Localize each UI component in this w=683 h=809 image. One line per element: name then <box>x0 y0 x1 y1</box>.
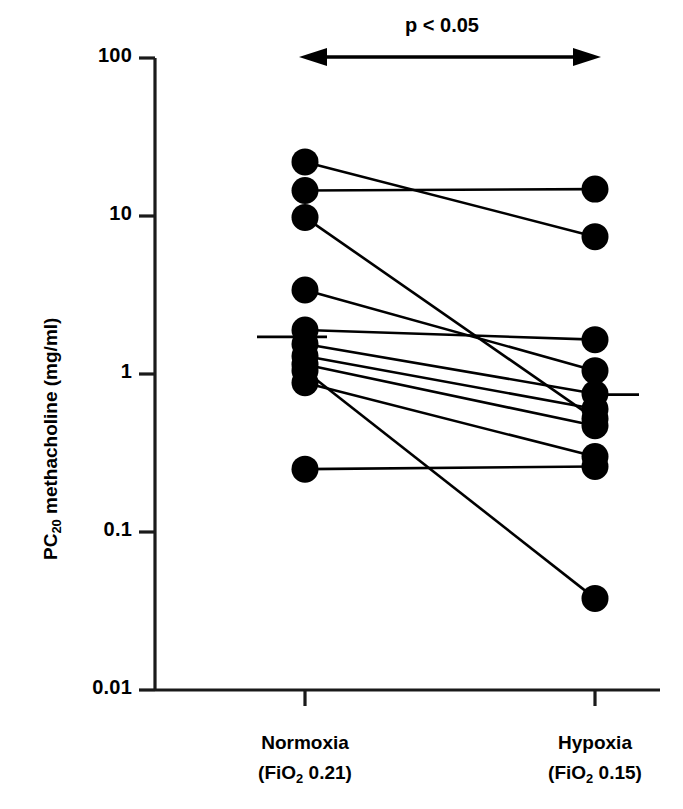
data-point-hypoxia[interactable] <box>582 585 609 612</box>
arrow-head-left-icon <box>299 48 327 66</box>
x-axis-label-normoxia: Normoxia(FiO2 0.21) <box>195 728 415 794</box>
data-point-normoxia[interactable] <box>292 204 319 231</box>
data-point-normoxia[interactable] <box>292 369 319 396</box>
data-point-normoxia[interactable] <box>292 277 319 304</box>
connector-line <box>305 466 595 469</box>
arrow-head-right-icon <box>573 48 601 66</box>
y-tick-label-10: 10 <box>20 202 132 225</box>
data-point-hypoxia[interactable] <box>582 326 609 353</box>
y-axis-title: PC20 methacholine (mg/ml) <box>40 318 64 560</box>
data-point-normoxia[interactable] <box>292 456 319 483</box>
data-point-hypoxia[interactable] <box>582 176 609 203</box>
p-value-label: p < 0.05 <box>405 14 479 37</box>
data-point-hypoxia[interactable] <box>582 357 609 384</box>
data-point-hypoxia[interactable] <box>582 223 609 250</box>
connector-line <box>305 371 595 599</box>
y-tick-label-0.01: 0.01 <box>20 676 132 699</box>
scatter-paired-plot: 1001010.10.01PC20 methacholine (mg/ml)No… <box>0 0 683 809</box>
data-point-hypoxia[interactable] <box>582 412 609 439</box>
connector-line <box>305 344 595 394</box>
connector-line <box>305 217 595 418</box>
y-tick-label-0.1: 0.1 <box>20 518 132 541</box>
y-tick-label-1: 1 <box>20 360 132 383</box>
connector-line <box>305 189 595 190</box>
data-point-normoxia[interactable] <box>292 148 319 175</box>
connector-line <box>305 356 595 409</box>
x-axis-label-hypoxia: Hypoxia(FiO2 0.15) <box>485 728 683 794</box>
data-point-hypoxia[interactable] <box>582 453 609 480</box>
y-tick-label-100: 100 <box>20 44 132 67</box>
connector-line <box>305 162 595 237</box>
data-point-normoxia[interactable] <box>292 177 319 204</box>
